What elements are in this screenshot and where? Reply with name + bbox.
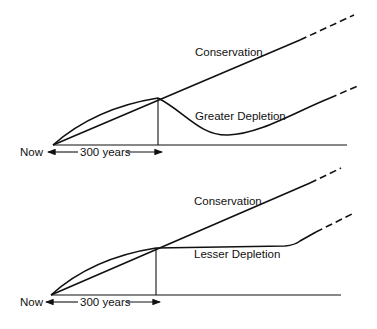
- conservation-label: Conservation: [195, 46, 263, 58]
- conservation-line: [53, 40, 300, 145]
- depletion-label: Greater Depletion: [195, 110, 286, 122]
- panel-lesser-depletion: Conservation Lesser Depletion Now 300 ye…: [20, 168, 352, 308]
- span-label: 300 years: [80, 296, 131, 308]
- conservation-projection: [300, 15, 354, 40]
- now-label: Now: [20, 296, 44, 308]
- now-label: Now: [20, 146, 44, 158]
- depletion-diagram: Conservation Greater Depletion Now 300 y…: [0, 0, 377, 329]
- conservation-label: Conservation: [194, 195, 262, 207]
- panel-greater-depletion: Conservation Greater Depletion Now 300 y…: [20, 15, 360, 158]
- greater-depletion-projection: [330, 85, 360, 98]
- lesser-depletion-projection: [316, 214, 352, 232]
- conservation-line: [51, 183, 310, 295]
- depletion-label: Lesser Depletion: [194, 248, 280, 260]
- conservation-projection: [310, 168, 341, 183]
- span-label: 300 years: [80, 146, 131, 158]
